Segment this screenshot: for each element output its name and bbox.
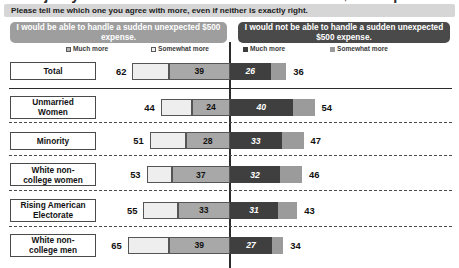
chart-row: Total39266236 [0,52,459,88]
bar-segment-right-somewhat [272,237,283,254]
row-total-right: 36 [293,63,323,80]
row-total-right: 47 [311,132,341,149]
bar-segment-left-somewhat [147,166,172,183]
bar-segment-left-somewhat [150,132,186,149]
subtitle-text: Please tell me which one you agree with … [11,4,308,17]
bar-segment-left-much: 24 [192,99,230,116]
chart-rows: Total39266236UnmarriedWomen24404454Minor… [0,52,459,260]
legend-swatch-icon-right-somewhat [330,47,335,52]
bar-segment-right-somewhat [278,202,297,219]
bar-segment-right-much: 31 [230,202,279,219]
chart-row: White non-college women37325346 [0,155,459,190]
bar-segment-left-somewhat [161,99,192,116]
row-total-left: 51 [116,132,144,149]
bar-segment-left-much: 39 [169,237,230,254]
bar-segment-right-somewhat [271,63,287,80]
row-bar-area: 39266236 [0,52,459,88]
bar-segment-right-much: 26 [230,63,271,80]
row-total-right: 34 [290,237,320,254]
legend-swatch-icon-right-much [243,47,248,52]
statement-box-agree: I would be able to handle a sudden unexp… [10,22,227,43]
legend-swatch-icon-left-somewhat [151,47,156,52]
bar-segment-right-much: 32 [230,166,280,183]
row-total-left: 55 [109,202,137,219]
chart-row: UnmarriedWomen24404454 [0,88,459,122]
bar-segment-left-much: 37 [172,166,230,183]
bar-segment-right-much: 33 [230,132,282,149]
bar-segment-left-somewhat [128,237,169,254]
bar-segment-right-much: 40 [230,99,293,116]
row-total-right: 54 [322,99,352,116]
bar-segment-left-much: 33 [178,202,230,219]
chart-row: Rising AmericanElectorate33315543 [0,190,459,226]
row-bar-area: 33315543 [0,190,459,226]
bar-segment-right-somewhat [282,132,304,149]
bar-segment-left-somewhat [143,202,178,219]
row-total-left: 53 [113,166,141,183]
bar-segment-left-much: 39 [169,63,230,80]
bar-segment-left-somewhat [132,63,168,80]
bar-segment-left-much: 28 [186,132,230,149]
chart-row: White non-college men39276534 [0,226,459,260]
legend-swatch-icon-left-much [66,47,71,52]
row-total-right: 46 [309,166,339,183]
row-bar-area: 28335147 [0,122,459,155]
chart-row: Minority28335147 [0,122,459,155]
row-total-right: 43 [304,202,334,219]
row-total-left: 44 [127,99,155,116]
row-total-left: 62 [98,63,126,80]
row-bar-area: 37325346 [0,155,459,190]
bar-segment-right-much: 27 [230,237,272,254]
bar-segment-right-somewhat [293,99,315,116]
row-bar-area: 39276534 [0,226,459,260]
row-bar-area: 24404454 [0,88,459,122]
bar-segment-right-somewhat [280,166,302,183]
row-total-left: 65 [94,237,122,254]
statement-box-disagree: I would not be able to handle a sudden u… [238,22,450,43]
